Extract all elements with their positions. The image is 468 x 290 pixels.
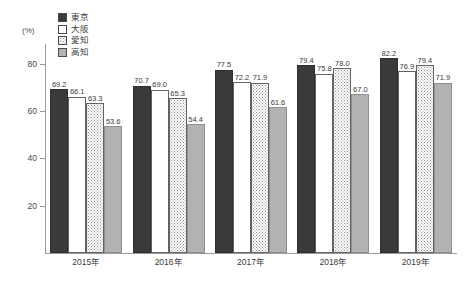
bar-value-label: 66.1 <box>70 88 85 96</box>
y-axis-line <box>45 44 46 253</box>
bar[interactable]: 77.5 <box>215 70 233 253</box>
y-axis-unit-label: (%) <box>22 27 34 35</box>
bar[interactable]: 54.4 <box>187 124 205 253</box>
bar-value-label: 79.4 <box>299 57 314 65</box>
legend-swatch-icon <box>58 13 67 22</box>
bar[interactable]: 53.6 <box>104 126 122 253</box>
y-axis-tick-label: 60 <box>11 107 37 116</box>
bar-value-label: 71.9 <box>253 74 268 82</box>
x-axis-tick-label: 2016年 <box>127 258 209 267</box>
x-axis-tick-label: 2017年 <box>210 258 292 267</box>
legend-item-tokyo: 東京 <box>58 12 118 24</box>
bar[interactable]: 69.2 <box>50 89 68 253</box>
bar[interactable]: 71.9 <box>434 83 452 253</box>
bar[interactable]: 76.9 <box>398 71 416 253</box>
bar-value-label: 72.2 <box>235 74 250 82</box>
legend-label: 東京 <box>71 13 89 22</box>
legend-label: 大阪 <box>71 25 89 34</box>
bar[interactable]: 66.1 <box>68 97 86 253</box>
bar-value-label: 77.5 <box>217 61 232 69</box>
y-axis-tick-label: 80 <box>11 60 37 69</box>
legend-swatch-icon <box>58 25 67 34</box>
bar-value-label: 76.9 <box>399 63 414 71</box>
bar[interactable]: 69.0 <box>151 90 169 253</box>
x-axis-tick-label: 2019年 <box>375 258 457 267</box>
bar-value-label: 82.2 <box>381 50 396 58</box>
bar[interactable]: 75.8 <box>315 74 333 253</box>
bar-group: 77.572.271.961.6 <box>215 40 287 253</box>
bar-value-label: 61.6 <box>271 99 286 107</box>
bar-value-label: 78.0 <box>335 60 350 68</box>
bar-value-label: 69.2 <box>52 81 67 89</box>
bar-value-label: 70.7 <box>134 77 149 85</box>
bar-group: 82.276.979.471.9 <box>380 40 452 253</box>
y-axis-tick <box>40 64 46 65</box>
y-axis-tick-label: 40 <box>11 154 37 163</box>
x-axis-tick-label: 2018年 <box>292 258 374 267</box>
bar-group: 69.266.163.353.6 <box>50 40 122 253</box>
bar[interactable]: 67.0 <box>351 94 369 253</box>
bar[interactable]: 78.0 <box>333 68 351 253</box>
bar[interactable]: 72.2 <box>233 82 251 253</box>
bar[interactable]: 82.2 <box>380 58 398 253</box>
bar[interactable]: 65.3 <box>169 98 187 253</box>
bar-value-label: 53.6 <box>106 118 121 126</box>
bar[interactable]: 79.4 <box>297 65 315 253</box>
bar[interactable]: 71.9 <box>251 83 269 253</box>
bar-value-label: 67.0 <box>353 86 368 94</box>
bar-value-label: 69.0 <box>152 81 167 89</box>
bar-group: 70.769.065.354.4 <box>133 40 205 253</box>
bar-value-label: 71.9 <box>435 74 450 82</box>
bar-value-label: 65.3 <box>170 90 185 98</box>
bar-chart: 東京 大阪 愛知 高知 (%) 2040608069.266.163.353.6… <box>0 0 468 290</box>
bar[interactable]: 79.4 <box>416 65 434 253</box>
bar-value-label: 63.3 <box>88 95 103 103</box>
bar-value-label: 75.8 <box>317 65 332 73</box>
y-axis-tick <box>40 158 46 159</box>
bar-value-label: 79.4 <box>417 57 432 65</box>
y-axis-tick <box>40 111 46 112</box>
x-axis-tick-label: 2015年 <box>45 258 127 267</box>
bar-value-label: 54.4 <box>188 116 203 124</box>
bar-group: 79.475.878.067.0 <box>297 40 369 253</box>
y-axis-tick-label: 20 <box>11 202 37 211</box>
bar[interactable]: 70.7 <box>133 86 151 253</box>
bar[interactable]: 61.6 <box>269 107 287 253</box>
x-axis-line <box>45 253 457 254</box>
plot-area: 2040608069.266.163.353.62015年70.769.065.… <box>45 40 457 253</box>
legend-item-osaka: 大阪 <box>58 24 118 36</box>
y-axis-tick <box>40 206 46 207</box>
bar[interactable]: 63.3 <box>86 103 104 253</box>
